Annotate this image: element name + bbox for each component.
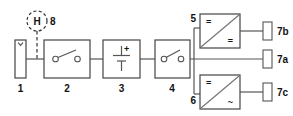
converter-dcdc-input-symbol: = xyxy=(206,17,211,27)
battery-polarity: + xyxy=(124,44,129,54)
load-icon-b xyxy=(263,22,272,40)
converter-dcdc-label: 5 xyxy=(190,13,196,24)
node-switch-left: 2 xyxy=(44,40,90,94)
node-load-a: 7a xyxy=(263,50,289,68)
node-converter-dcac: = ~ 6 xyxy=(190,75,263,109)
load-a-label: 7a xyxy=(277,54,289,65)
node-load-b: 7b xyxy=(263,22,289,40)
node-converter-dcdc: = = 5 xyxy=(190,13,263,48)
node-battery: + 3 xyxy=(103,40,140,94)
schematic-diagram: 1 H 8 2 + 3 xyxy=(0,0,293,116)
node-load-c: 7c xyxy=(263,83,289,101)
switch-icon xyxy=(53,56,59,62)
converter-dcac-label: 6 xyxy=(190,95,196,106)
switch-right-body xyxy=(155,40,190,78)
switch-left-label: 2 xyxy=(64,83,70,94)
switch-left-body xyxy=(44,40,90,78)
load-icon-c xyxy=(263,83,272,101)
node-switch-right: 4 xyxy=(155,40,190,94)
sensor-symbol: H xyxy=(33,16,40,27)
sensor-label: 8 xyxy=(50,16,56,27)
battery-body xyxy=(103,40,140,78)
source-label: 1 xyxy=(18,83,24,94)
switch-right-contact-right xyxy=(178,56,184,62)
converter-dcdc-output-symbol: = xyxy=(228,36,233,46)
load-c-label: 7c xyxy=(277,87,289,98)
load-icon-a xyxy=(263,50,272,68)
converter-dcac-input-symbol: = xyxy=(206,78,211,88)
converter-dcac-output-symbol: ~ xyxy=(228,97,233,107)
switch-right-label: 4 xyxy=(169,83,175,94)
node-source-tank: 1 xyxy=(15,40,26,94)
wire-group-distribution-bus xyxy=(194,28,200,94)
switch-left-contact-right xyxy=(75,56,81,62)
load-b-label: 7b xyxy=(277,26,289,37)
battery-label: 3 xyxy=(119,83,125,94)
